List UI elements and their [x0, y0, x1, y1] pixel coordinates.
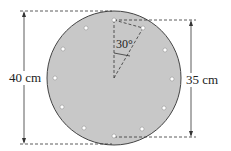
bolt-hole	[60, 105, 64, 109]
bolt-circle-diameter-label: 35 cm	[185, 73, 219, 87]
bolt-hole	[61, 47, 65, 51]
angle-label: 30°	[116, 38, 133, 51]
bolt-hole	[170, 77, 174, 81]
bolt-hole	[112, 134, 116, 138]
bolt-hole	[82, 126, 86, 130]
bolt-hole	[140, 127, 144, 131]
bolt-hole	[112, 18, 116, 22]
bolt-hole	[162, 106, 166, 110]
arrowhead-up-icon	[22, 11, 26, 17]
arrowhead-up-icon	[189, 20, 193, 26]
arrowhead-down-icon	[22, 138, 26, 144]
bolt-hole	[163, 48, 167, 52]
bolt-hole	[141, 26, 145, 30]
outer-diameter-label: 40 cm	[8, 71, 42, 85]
arrowhead-down-icon	[189, 131, 193, 137]
bolt-hole	[53, 76, 57, 80]
bolt-hole	[84, 26, 88, 30]
